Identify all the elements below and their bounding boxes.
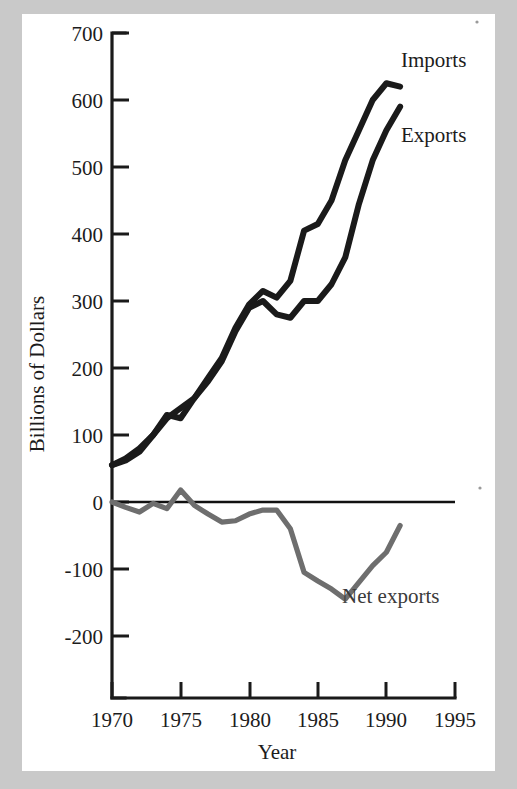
figure-frame: 700 600 500 400 300 200 100 0 -100 -200 … [0,0,517,789]
print-speck [478,486,481,489]
x-axis-ticks [112,682,455,698]
y-axis-ticks [112,33,129,636]
y-tick-label-300: 300 [72,290,104,314]
print-speck [475,20,478,23]
y-axis-line [112,33,125,698]
x-tick-label-1995: 1995 [434,708,476,732]
y-tick-label-100: 100 [72,424,104,448]
y-tick-label-200: 200 [72,357,104,381]
x-tick-label-1990: 1990 [365,708,407,732]
y-tick-label-400: 400 [72,223,104,247]
y-tick-label-neg200: -200 [65,625,104,649]
series-line-net-exports [112,490,400,599]
x-tick-label-1985: 1985 [297,708,339,732]
series-label-net-exports: Net exports [342,584,439,608]
y-tick-label-0: 0 [93,491,104,515]
series-line-exports [112,107,400,465]
y-axis-title: Billions of Dollars [25,296,49,452]
x-tick-label-1975: 1975 [160,708,202,732]
series-label-imports: Imports [401,48,466,72]
y-tick-label-500: 500 [72,156,104,180]
x-axis-title: Year [258,740,297,764]
series-label-exports: Exports [401,123,466,147]
y-tick-label-700: 700 [72,22,104,46]
series-line-imports [112,83,400,465]
chart-sheet: 700 600 500 400 300 200 100 0 -100 -200 … [22,14,495,771]
y-tick-label-600: 600 [72,89,104,113]
x-tick-label-1980: 1980 [229,708,271,732]
line-chart: 700 600 500 400 300 200 100 0 -100 -200 … [22,14,495,771]
y-tick-label-neg100: -100 [65,558,104,582]
x-tick-label-1970: 1970 [91,708,133,732]
